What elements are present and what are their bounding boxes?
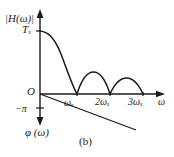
x-tick-label-2ws: 2ωs <box>95 97 109 107</box>
w2s-subscript: s <box>107 101 109 107</box>
phase-line <box>40 94 136 130</box>
phase-axis-label: φ (ω) <box>25 127 49 138</box>
y-axis-max-label: Ts <box>22 24 30 35</box>
w2s-symbol: 2ω <box>95 96 107 107</box>
w3s-subscript: s <box>140 101 142 107</box>
w3s-symbol: 3ω <box>128 96 140 107</box>
figure-container: |H(ω)| Ts O −π φ (ω) ωs 2ωs 3ωs ω (b) <box>0 0 174 157</box>
x-axis-label: ω <box>158 97 165 107</box>
vertical-axis-down-arrow-icon <box>37 117 44 126</box>
ts-subscript: s <box>28 29 30 35</box>
ws-subscript: s <box>71 102 73 108</box>
origin-label: O <box>27 86 35 97</box>
vertical-axis-up-arrow-icon <box>37 9 44 18</box>
magnitude-main-lobe-curve <box>40 31 77 94</box>
magnitude-side-lobe-1-curve <box>77 72 110 94</box>
x-tick-label-3ws: 3ωs <box>128 97 142 107</box>
magnitude-side-lobe-2-curve <box>110 78 143 94</box>
y-axis-label: |H(ω)| <box>5 13 34 24</box>
figure-caption: (b) <box>79 136 92 147</box>
phase-tick-label: −π <box>15 104 27 114</box>
ws-symbol: ω <box>64 97 71 108</box>
x-tick-label-ws: ωs <box>64 98 73 108</box>
